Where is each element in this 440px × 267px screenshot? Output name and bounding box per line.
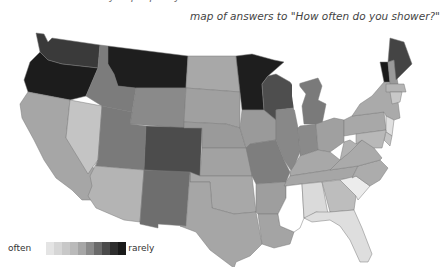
- legend-swatch: [102, 242, 110, 255]
- legend-swatch: [46, 242, 54, 255]
- state-mt: [108, 46, 188, 88]
- legend-swatch: [54, 242, 62, 255]
- legend-low-label: often: [8, 243, 31, 253]
- legend-swatch: [62, 242, 70, 255]
- legend-high-label: rarely: [128, 243, 154, 253]
- state-ma: [386, 84, 406, 92]
- legend-swatch: [110, 242, 118, 255]
- state-ks: [200, 148, 252, 176]
- state-wy: [130, 88, 186, 128]
- state-oh: [316, 118, 344, 152]
- legend-swatch: [70, 242, 78, 255]
- legend-color-ramp: [46, 242, 126, 255]
- state-mi: [298, 78, 326, 124]
- state-az: [88, 160, 144, 222]
- state-sd: [184, 88, 240, 128]
- state-nd: [186, 56, 240, 92]
- legend-swatch: [78, 242, 86, 255]
- legend-swatch: [118, 242, 126, 255]
- legend-swatch: [94, 242, 102, 255]
- state-nm: [140, 170, 190, 228]
- state-fl: [304, 210, 372, 262]
- legend-swatch: [86, 242, 94, 255]
- state-ct: [390, 92, 402, 104]
- state-co: [144, 126, 202, 176]
- legend: often rarely: [8, 240, 154, 256]
